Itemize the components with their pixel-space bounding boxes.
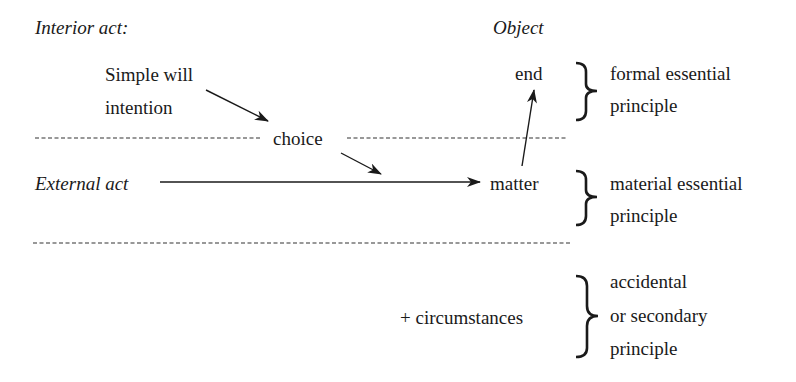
formal-principle-line2: principle: [610, 96, 678, 115]
intention-label: intention: [105, 98, 173, 117]
material-principle-line2: principle: [610, 206, 678, 225]
object-heading: Object: [493, 18, 544, 37]
matter-label: matter: [490, 174, 539, 193]
circumstances-label: + circumstances: [400, 308, 523, 327]
external-act-label: External act: [35, 174, 128, 193]
accidental-principle-line2: or secondary: [610, 306, 708, 325]
interior-act-heading: Interior act:: [35, 18, 128, 37]
accidental-principle-line3: principle: [610, 339, 678, 358]
choice-label: choice: [273, 129, 323, 148]
brace-material-icon: [576, 171, 597, 225]
simple-will-label: Simple will: [105, 65, 193, 84]
accidental-principle-line1: accidental: [610, 272, 687, 291]
end-label: end: [515, 64, 542, 83]
brace-accidental-icon: [576, 276, 598, 357]
formal-principle-line1: formal essential: [610, 64, 731, 83]
material-principle-line1: material essential: [610, 174, 742, 193]
matter-to-end-arrow: [522, 90, 534, 166]
will-to-choice-arrow: [206, 90, 268, 121]
choice-to-act-arrow: [341, 153, 381, 174]
brace-formal-icon: [576, 63, 597, 120]
